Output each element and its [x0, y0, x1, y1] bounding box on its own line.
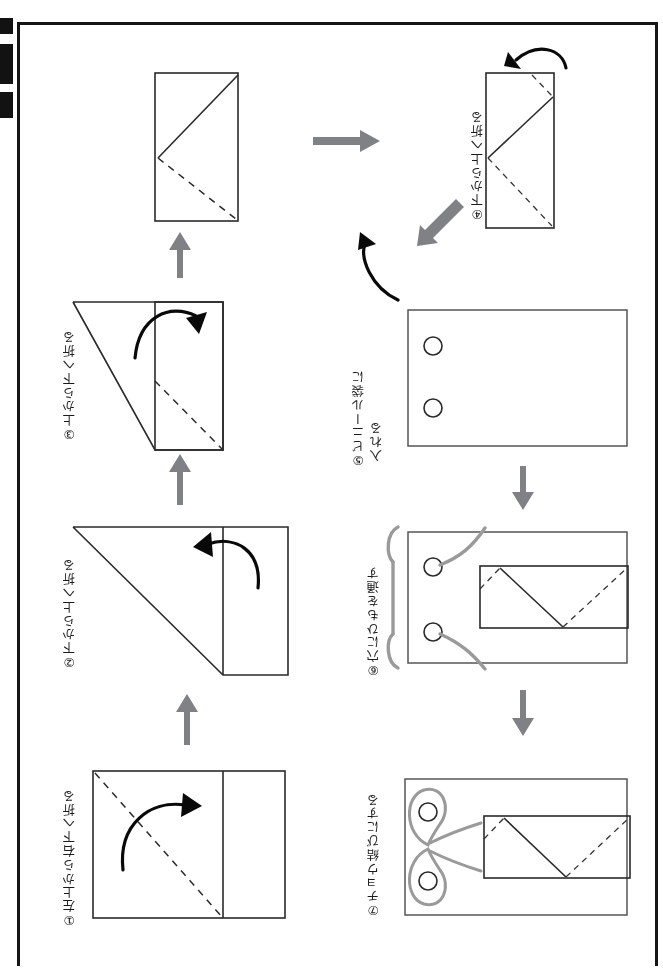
arrow-step2-to-step3: [169, 454, 191, 505]
step-5-figure: [408, 310, 627, 446]
figure-after-step-3: [155, 73, 238, 221]
fold-arrow-step-5: [358, 232, 398, 300]
arrow-step6-to-step7: [512, 690, 534, 736]
step-7-figure: [405, 779, 630, 915]
arrow-step1-to-step2: [176, 694, 198, 745]
step-1-figure: [93, 771, 285, 918]
arrow-step3-to-result: [169, 232, 191, 278]
step-6-figure: [388, 527, 628, 669]
step-2-figure: [73, 527, 288, 675]
step-3-figure: [73, 302, 223, 450]
diagram-page: ①左上から右下へ折る ②下から上へ折る ③上から下へ折る ④下から上へ折る ⑤ビ…: [0, 0, 663, 976]
diagram-graphics: [0, 0, 663, 976]
arrow-step4-to-step5: [417, 199, 464, 246]
arrow-step5-to-step6: [512, 466, 534, 510]
arrow-result-to-step4: [313, 130, 380, 152]
step-4-figure: [486, 49, 566, 228]
